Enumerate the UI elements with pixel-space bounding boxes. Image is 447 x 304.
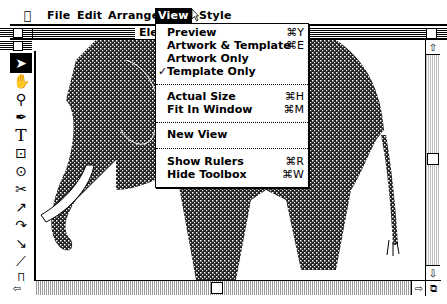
right-arrow-icon: ⇨: [415, 283, 423, 294]
menu-item-artwork-and-template[interactable]: Artwork & Template⌘E: [156, 39, 308, 52]
shortcut-label: ⌘W: [282, 168, 304, 181]
menu-item-label: Show Rulers: [167, 155, 244, 168]
apple-menu-icon[interactable]: : [24, 9, 31, 23]
tool-reflect[interactable]: ↘: [10, 233, 32, 253]
toolbox-header: [0, 27, 32, 53]
menu-item-label: Artwork & Template: [167, 39, 291, 52]
arrow-icon: ➤: [15, 55, 27, 71]
menu-item-fit-in-window[interactable]: Fit In Window⌘M: [156, 103, 308, 116]
menu-view[interactable]: View: [155, 8, 192, 23]
menu-item-label: Artwork Only: [167, 52, 249, 65]
tool-zoom[interactable]: ⚲: [10, 89, 32, 109]
vertical-scroll-thumb[interactable]: [427, 153, 439, 165]
up-arrow-icon: ⇧: [429, 42, 437, 53]
hand-icon: ✋: [13, 73, 30, 89]
menu-item-show-rulers[interactable]: Show Rulers⌘R: [156, 155, 308, 168]
reflect-icon: ↘: [15, 235, 27, 251]
tool-text[interactable]: T: [10, 125, 32, 145]
freehand-icon: ↗: [15, 199, 27, 215]
horizontal-scroll-thumb[interactable]: [211, 282, 223, 294]
menu-item-label: Preview: [167, 26, 217, 39]
scissors-icon: ✂: [15, 181, 27, 197]
mouse-cursor-icon: [191, 8, 199, 22]
menu-item-preview[interactable]: Preview⌘Y: [156, 26, 308, 39]
tool-scissors[interactable]: ✂: [10, 179, 32, 199]
menu-separator: [156, 84, 308, 85]
shortcut-label: ⌘Y: [286, 26, 304, 39]
tool-rectangle[interactable]: ⊡: [10, 143, 32, 163]
menu-item-artwork-only[interactable]: Artwork Only: [156, 52, 308, 65]
tool-freehand-corner[interactable]: ↗: [10, 197, 32, 217]
menu-item-label: Template Only: [167, 65, 256, 78]
tool-oval[interactable]: ⊙: [10, 161, 32, 181]
scroll-right-button[interactable]: ⇨: [411, 281, 426, 295]
tool-pen[interactable]: ✒: [10, 107, 32, 127]
toolbox-titlebar-stripes[interactable]: [0, 27, 32, 38]
menu-item-label: Actual Size: [167, 90, 236, 103]
zoom-box[interactable]: [426, 28, 437, 39]
menu-item-template-only[interactable]: ✓Template Only: [156, 65, 308, 78]
grow-icon: ⧉: [430, 283, 437, 295]
menu-item-new-view[interactable]: New View: [156, 128, 308, 141]
pen-icon: ✒: [15, 109, 27, 125]
rectangle-icon: ⊡: [15, 145, 27, 161]
vertical-scrollbar[interactable]: ⇧ ⇩: [425, 40, 440, 280]
scroll-left-button[interactable]: ⇦: [10, 281, 24, 295]
menu-item-label: New View: [167, 128, 227, 141]
menu-arrange[interactable]: Arrange: [105, 8, 162, 23]
view-menu-dropdown: Preview⌘Y Artwork & Template⌘E Artwork O…: [155, 23, 309, 188]
menu-style[interactable]: Style: [196, 8, 235, 23]
toolbox-zoom-box[interactable]: [13, 41, 23, 51]
shortcut-label: ⌘E: [286, 39, 304, 52]
tool-curve[interactable]: ↷: [10, 215, 32, 235]
scroll-up-button[interactable]: ⇧: [426, 40, 440, 55]
oval-icon: ⊙: [15, 163, 27, 179]
tool-selection-arrow[interactable]: ➤: [10, 53, 32, 73]
left-arrow-icon: ⇦: [13, 283, 21, 294]
shortcut-label: ⌘M: [284, 103, 305, 116]
down-arrow-icon: ⇩: [429, 268, 437, 279]
horizontal-scrollbar[interactable]: ⇦ ⇨: [36, 280, 425, 295]
text-icon: T: [15, 125, 26, 145]
menu-item-label: Hide Toolbox: [167, 168, 247, 181]
checkmark-icon: ✓: [158, 65, 167, 78]
scroll-down-button[interactable]: ⇩: [426, 265, 440, 280]
magnifier-icon: ⚲: [16, 91, 26, 107]
curve-icon: ↷: [15, 217, 27, 233]
shortcut-label: ⌘H: [285, 90, 304, 103]
menu-item-actual-size[interactable]: Actual Size⌘H: [156, 90, 308, 103]
menu-item-hide-toolbox[interactable]: Hide Toolbox⌘W: [156, 168, 308, 181]
menu-edit[interactable]: Edit: [74, 8, 105, 23]
toolbox-drag-bar[interactable]: [0, 40, 32, 51]
tool-grabber-hand[interactable]: ✋: [10, 71, 32, 91]
menu-file[interactable]: File: [44, 8, 73, 23]
toolbox: ➤ ✋ ⚲ ✒ T ⊡ ⊙ ✂ ↗ ↷ ↘ ⟋ ▯: [8, 51, 36, 281]
size-box[interactable]: ⧉: [425, 280, 441, 296]
shortcut-label: ⌘R: [285, 155, 304, 168]
menu-item-label: Fit In Window: [167, 103, 252, 116]
menu-separator: [156, 122, 308, 123]
menu-separator: [156, 148, 308, 149]
toolbox-close-box[interactable]: [13, 28, 23, 38]
